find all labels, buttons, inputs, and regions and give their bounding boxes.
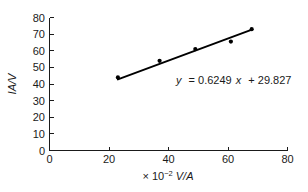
y-tick-label: 0 (39, 145, 45, 157)
x-axis-unit: V/A (176, 170, 194, 182)
x-axis-times-symbol: × (143, 170, 149, 182)
plot-area: 0 10 20 30 40 50 60 70 80 0 20 40 60 80 (0, 0, 308, 192)
y-tick-label: 80 (33, 12, 45, 24)
x-tick-label: 60 (222, 153, 234, 165)
y-axis-tick-labels: 0 10 20 30 40 50 60 70 80 (33, 12, 45, 157)
eq-x: x (235, 74, 242, 86)
y-tick-label: 10 (33, 128, 45, 140)
eq-intercept: + 29.827 (248, 74, 291, 86)
regression-equation: y = 0.6249 x + 29.827 (175, 74, 291, 86)
x-axis-tick-labels: 0 20 40 60 80 (46, 153, 293, 165)
x-axis-label: ×10−2V/A (143, 169, 194, 182)
y-tick-label: 70 (33, 28, 45, 40)
y-axis-ticks (50, 18, 54, 151)
x-axis-exponent: −2 (164, 169, 173, 178)
chart-figure: 0 10 20 30 40 50 60 70 80 0 20 40 60 80 (0, 0, 308, 192)
x-tick-label: 40 (162, 153, 174, 165)
y-tick-label: 40 (33, 78, 45, 90)
x-tick-label: 0 (46, 153, 52, 165)
y-tick-label: 60 (33, 45, 45, 57)
y-tick-label: 30 (33, 95, 45, 107)
regression-trend-line (118, 30, 251, 80)
x-tick-label: 20 (103, 153, 115, 165)
x-tick-label: 80 (281, 153, 293, 165)
data-point (250, 27, 254, 31)
y-tick-label: 20 (33, 111, 45, 123)
y-axis-label-rest: A/V (6, 72, 18, 92)
data-point (193, 47, 197, 51)
y-tick-label: 50 (33, 61, 45, 73)
data-point (116, 75, 120, 79)
y-axis-label: IA/V (6, 72, 18, 94)
data-point (229, 40, 233, 44)
eq-y: y (175, 74, 183, 86)
x-axis-ticks (50, 147, 288, 151)
x-axis-base: 10 (152, 170, 164, 182)
data-point (158, 59, 162, 63)
eq-coefficient: = 0.6249 (189, 74, 232, 86)
